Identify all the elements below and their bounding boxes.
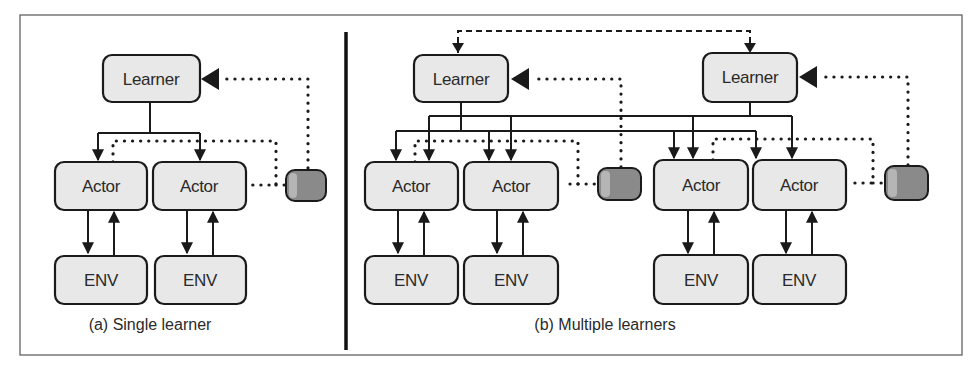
actor-node: Actor: [464, 162, 558, 210]
caption-single-learner: (a) Single learner: [89, 316, 212, 333]
env-node: ENV: [155, 256, 246, 304]
replay-buffer-cylinder-icon: [598, 168, 641, 200]
learner-label: Learner: [722, 68, 779, 87]
env-label: ENV: [394, 271, 429, 290]
learner-node: Learner: [414, 55, 508, 102]
env-node: ENV: [654, 255, 748, 304]
actor-label: Actor: [82, 177, 121, 196]
learner-node: Learner: [703, 53, 797, 102]
env-node: ENV: [753, 255, 846, 304]
actor-label: Actor: [392, 177, 431, 196]
distributed-rl-diagram: Learner Actor Actor ENV ENV (a) Single l…: [0, 0, 980, 381]
actor-label: Actor: [780, 176, 819, 195]
env-label: ENV: [684, 271, 719, 290]
replay-buffer-cylinder-icon: [885, 166, 928, 200]
actor-node: Actor: [753, 160, 846, 210]
env-node: ENV: [464, 256, 558, 304]
learner-node: Learner: [103, 55, 200, 102]
actor-label: Actor: [180, 177, 219, 196]
env-label: ENV: [494, 271, 529, 290]
env-node: ENV: [55, 256, 147, 304]
actor-label: Actor: [492, 177, 531, 196]
learner-label: Learner: [123, 70, 180, 89]
env-label: ENV: [782, 271, 817, 290]
env-label: ENV: [84, 271, 119, 290]
actor-node: Actor: [153, 162, 246, 210]
learner-label: Learner: [433, 70, 490, 89]
actor-node: Actor: [55, 162, 147, 210]
replay-buffer-cylinder-icon: [286, 170, 326, 201]
caption-multiple-learners: (b) Multiple learners: [534, 316, 675, 333]
env-node: ENV: [365, 256, 458, 304]
actor-node: Actor: [654, 160, 748, 210]
actor-label: Actor: [682, 176, 721, 195]
actor-node: Actor: [365, 162, 458, 210]
env-label: ENV: [183, 271, 218, 290]
